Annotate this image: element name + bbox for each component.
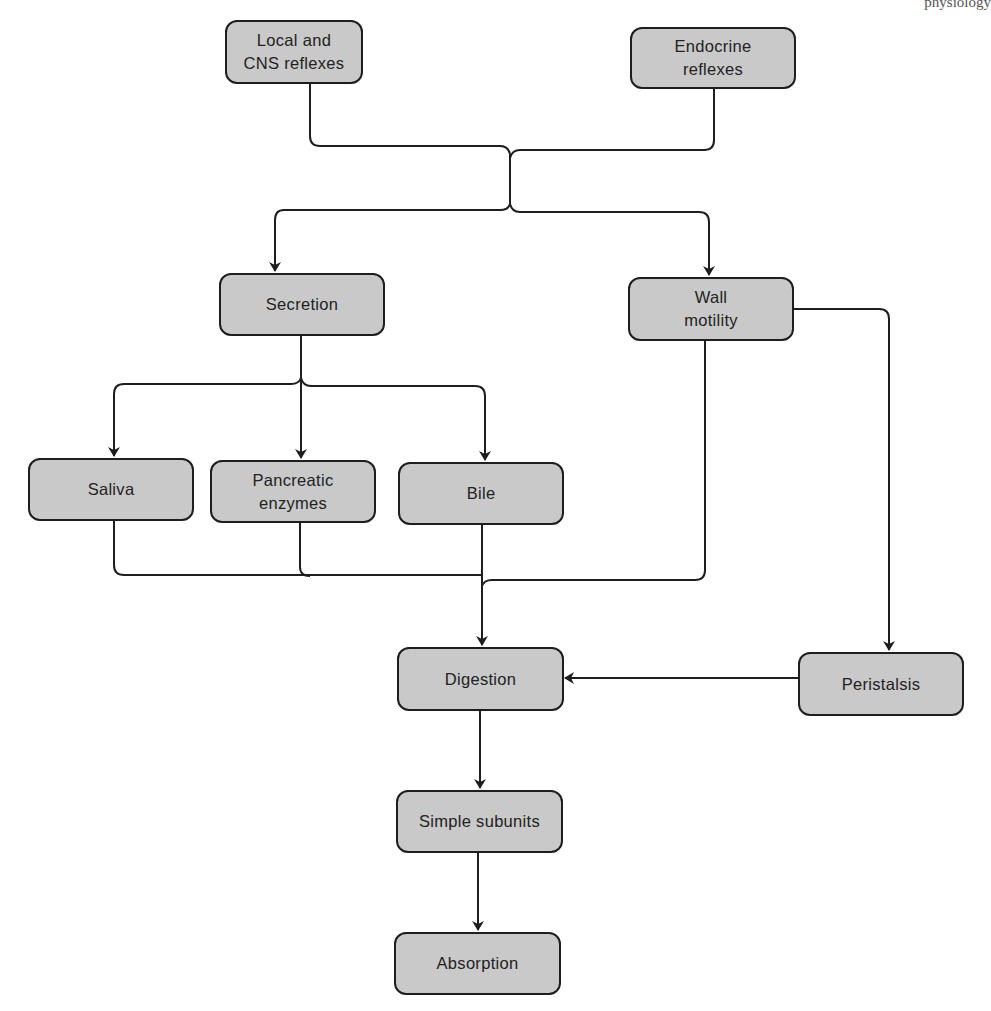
node-label: Simple subunits [419,810,540,833]
node-secretion: Secretion [219,273,385,336]
node-label: Secretion [266,293,338,316]
node-wall-motility: Wall motility [628,277,794,341]
node-label: Bile [467,482,496,505]
node-label: Endocrine reflexes [675,35,752,81]
node-label: Peristalsis [842,673,921,696]
node-endocrine-reflexes: Endocrine reflexes [630,27,796,89]
node-label: Saliva [88,478,135,501]
node-label: Digestion [445,668,517,691]
node-peristalsis: Peristalsis [798,652,964,716]
node-digestion: Digestion [397,647,564,711]
node-simple-subunits: Simple subunits [396,790,563,853]
node-label: Wall motility [684,286,738,332]
node-label: Absorption [437,952,519,975]
node-label: Pancreatic enzymes [253,469,334,515]
node-pancreatic-enzymes: Pancreatic enzymes [210,460,376,523]
node-saliva: Saliva [28,458,194,521]
node-absorption: Absorption [394,932,561,995]
node-bile: Bile [398,462,564,525]
node-local-cns-reflexes: Local and CNS reflexes [225,20,363,84]
node-label: Local and CNS reflexes [244,29,345,75]
